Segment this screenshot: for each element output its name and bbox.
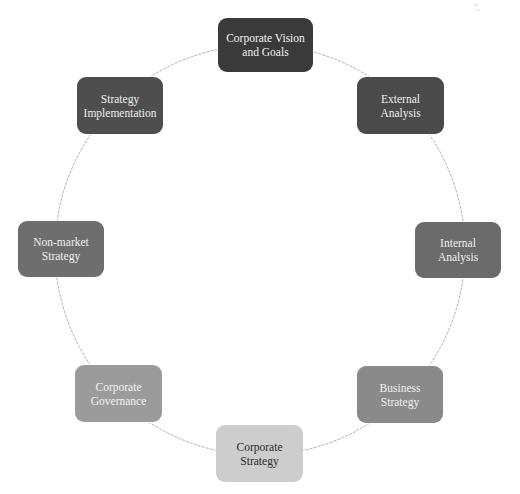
node-external-analysis: External Analysis — [357, 77, 444, 134]
node-internal-analysis: Internal Analysis — [415, 222, 501, 278]
node-label: Corporate Strategy — [237, 440, 283, 468]
node-non-market-strategy: Non-market Strategy — [18, 221, 104, 277]
node-label: Strategy Implementation — [84, 92, 157, 120]
node-label: External Analysis — [380, 92, 420, 120]
faint-mark-icon — [473, 2, 481, 14]
node-label: Corporate Governance — [91, 380, 147, 408]
node-label: Corporate Vision and Goals — [226, 31, 305, 59]
node-corporate-vision-and-goals: Corporate Vision and Goals — [218, 18, 313, 72]
node-corporate-governance: Corporate Governance — [75, 365, 162, 422]
node-corporate-strategy: Corporate Strategy — [216, 425, 303, 482]
node-business-strategy: Business Strategy — [357, 366, 443, 423]
node-label: Non-market Strategy — [33, 235, 89, 263]
node-label: Business Strategy — [380, 381, 421, 409]
strategy-cycle-diagram: Corporate Vision and Goals External Anal… — [0, 0, 520, 494]
node-label: Internal Analysis — [419, 236, 497, 264]
node-strategy-implementation: Strategy Implementation — [77, 77, 163, 134]
